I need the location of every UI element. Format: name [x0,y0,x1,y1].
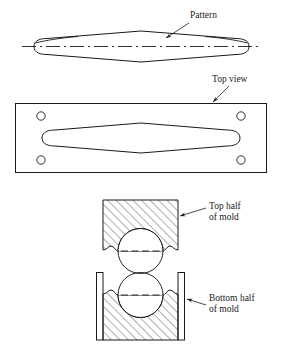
casting-mold-figure: Pattern Top view Top half of mold [0,0,284,358]
bottom-half-label-line1: Bottom half [209,293,255,303]
pattern-leader-line [166,23,189,38]
bottom-half-label-line2: of mold [209,304,239,314]
pattern-label: Pattern [190,10,217,20]
top-half-mold: Top half of mold [103,200,242,274]
bottom-half-leader-line [187,299,206,305]
top-view-cavity-outline [42,123,240,153]
pin-hole [237,112,245,120]
top-half-label-line1: Top half [209,201,242,211]
top-view-leader-line [213,86,229,102]
top-half-label-line2: of mold [209,212,239,222]
flask-wall-right [178,273,185,341]
top-view-rectangle [16,104,267,173]
pin-hole [237,156,245,164]
pattern-side-view: Pattern [22,10,262,62]
top-view-label: Top view [212,74,248,84]
top-view-plate: Top view [16,74,267,173]
pin-hole [37,112,45,120]
flask-wall-left [97,273,104,341]
pin-hole [37,156,45,164]
top-half-leader-line [180,208,206,216]
bottom-half-mold: Bottom half of mold [97,273,256,341]
